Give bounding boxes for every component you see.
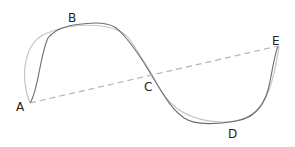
label-d: D xyxy=(228,127,237,141)
label-a: A xyxy=(16,100,25,114)
label-b: B xyxy=(68,11,76,25)
label-e: E xyxy=(272,34,280,48)
s-curve-diagram: A B C D E xyxy=(0,0,295,147)
label-c: C xyxy=(144,80,152,94)
smooth-reference-curve xyxy=(25,25,279,122)
dashed-line-a-e xyxy=(30,46,278,103)
drawn-curve xyxy=(30,23,278,124)
